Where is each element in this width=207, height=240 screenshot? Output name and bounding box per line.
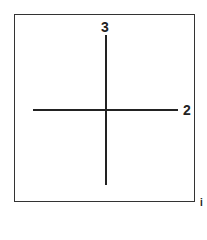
- corner-mark: i: [200, 197, 203, 208]
- horizontal-axis-line: [33, 109, 178, 111]
- horizontal-axis-label: 2: [183, 103, 191, 117]
- vertical-axis-label: 3: [101, 20, 109, 34]
